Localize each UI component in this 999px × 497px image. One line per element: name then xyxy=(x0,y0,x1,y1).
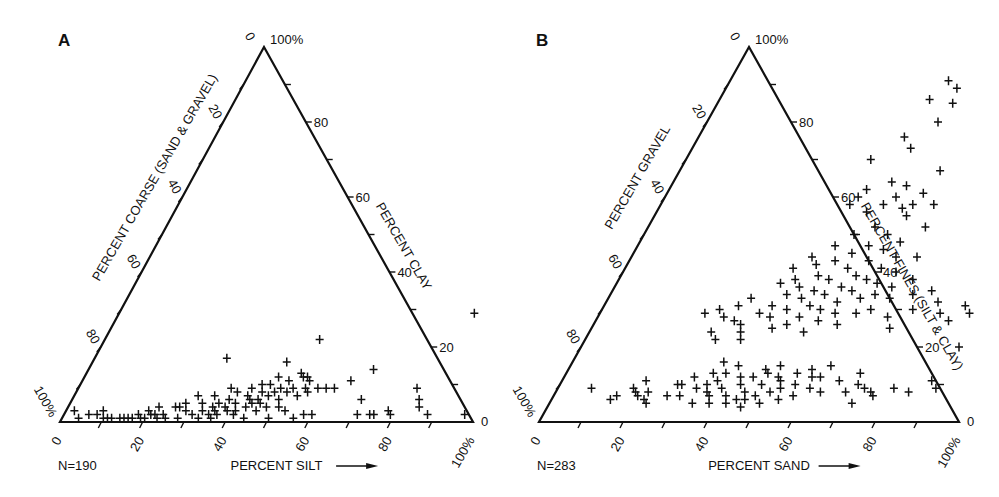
data-point-plus-icon xyxy=(934,118,942,127)
data-point-plus-icon xyxy=(842,388,850,397)
data-point-plus-icon xyxy=(871,290,879,299)
data-point-plus-icon xyxy=(690,373,698,382)
data-point-plus-icon xyxy=(252,406,260,415)
data-point-plus-icon xyxy=(718,384,726,393)
data-point-plus-icon xyxy=(928,286,936,295)
data-point-plus-icon xyxy=(806,384,814,393)
data-point-plus-icon xyxy=(856,294,864,303)
data-point-plus-icon xyxy=(735,361,743,370)
data-point-plus-icon xyxy=(825,275,833,284)
data-point-plus-icon xyxy=(283,358,291,367)
data-point-plus-icon xyxy=(888,178,896,187)
data-point-plus-icon xyxy=(783,290,791,299)
left-tick-label: 40 xyxy=(165,176,185,196)
bottom-tick-label: 0 xyxy=(48,434,65,448)
data-point-plus-icon xyxy=(930,200,938,209)
data-point-plus-icon xyxy=(766,313,774,322)
data-point-plus-icon xyxy=(831,309,839,318)
ternary-figure: 0202020404040606060808080100%00100%100%P… xyxy=(0,0,999,497)
panel-label-b: B xyxy=(536,31,548,50)
data-point-plus-icon xyxy=(926,95,934,104)
left-tick-label: 20 xyxy=(205,101,225,121)
right-tick-label: 80 xyxy=(314,115,328,130)
data-point-plus-icon xyxy=(85,410,93,419)
data-point-plus-icon xyxy=(886,324,894,333)
bottom-tick-label: 20 xyxy=(127,434,147,454)
data-point-plus-icon xyxy=(357,395,365,404)
data-point-plus-icon xyxy=(642,376,650,385)
data-point-plus-icon xyxy=(720,358,728,367)
apex-100-label: 100% xyxy=(270,32,304,47)
data-point-plus-icon xyxy=(756,399,764,408)
data-point-plus-icon xyxy=(783,305,791,314)
data-point-plus-icon xyxy=(863,185,871,194)
bottom-axis-title: PERCENT SAND xyxy=(708,458,810,473)
data-point-plus-icon xyxy=(903,211,911,220)
data-point-plus-icon xyxy=(194,391,202,400)
right-tick-label: 60 xyxy=(356,190,370,205)
bottom-tick-label: 100% xyxy=(934,434,964,471)
data-point-plus-icon xyxy=(707,328,715,337)
data-point-plus-icon xyxy=(676,391,684,400)
data-point-plus-icon xyxy=(741,395,749,404)
data-point-plus-icon xyxy=(848,249,856,258)
data-point-plus-icon xyxy=(751,391,759,400)
data-point-plus-icon xyxy=(330,384,338,393)
data-point-plus-icon xyxy=(921,223,929,232)
data-point-plus-icon xyxy=(949,99,957,108)
data-point-plus-icon xyxy=(814,271,822,280)
left-tick-label: 20 xyxy=(689,101,709,121)
data-point-plus-icon xyxy=(413,384,421,393)
data-point-plus-icon xyxy=(791,275,799,284)
data-point-plus-icon xyxy=(353,410,361,419)
data-point-plus-icon xyxy=(709,369,717,378)
data-point-plus-icon xyxy=(768,324,776,333)
right-zero-label: 0 xyxy=(481,414,488,429)
data-point-plus-icon xyxy=(275,373,283,382)
data-point-plus-icon xyxy=(701,309,709,318)
left-axis-title: PERCENT COARSE (SAND & GRAVEL) xyxy=(89,71,220,283)
data-point-plus-icon xyxy=(266,380,274,389)
data-point-plus-icon xyxy=(588,384,596,393)
data-point-plus-icon xyxy=(777,384,785,393)
bottom-tick-label: 0 xyxy=(527,434,544,448)
data-point-plus-icon xyxy=(945,76,953,85)
data-point-plus-icon xyxy=(211,391,219,400)
data-point-plus-icon xyxy=(867,155,875,164)
data-point-plus-icon xyxy=(884,313,892,322)
data-point-plus-icon xyxy=(768,301,776,310)
left-tick-label: 40 xyxy=(647,176,667,196)
data-point-plus-icon xyxy=(961,301,969,310)
data-point-plus-icon xyxy=(795,283,803,292)
data-point-plus-icon xyxy=(300,410,308,419)
data-point-plus-icon xyxy=(816,388,824,397)
data-point-plus-icon xyxy=(966,309,974,318)
data-point-plus-icon xyxy=(735,301,743,310)
right-tick-label: 60 xyxy=(841,190,855,205)
data-point-plus-icon xyxy=(913,253,921,262)
data-point-plus-icon xyxy=(907,144,915,153)
data-point-plus-icon xyxy=(777,361,785,370)
data-point-plus-icon xyxy=(248,384,256,393)
apex-zero-label: 0 xyxy=(727,30,744,44)
data-point-plus-icon xyxy=(737,403,745,412)
panel-label-a: A xyxy=(58,31,70,50)
data-point-plus-icon xyxy=(909,200,917,209)
data-point-plus-icon xyxy=(795,313,803,322)
bottom-tick-label: 60 xyxy=(775,434,795,454)
data-point-plus-icon xyxy=(322,384,330,393)
data-point-plus-icon xyxy=(783,320,791,329)
bottom-tick-label: 100% xyxy=(448,434,478,471)
data-point-plus-icon xyxy=(644,388,652,397)
data-point-plus-icon xyxy=(848,286,856,295)
data-point-plus-icon xyxy=(888,283,896,292)
data-point-plus-icon xyxy=(705,399,713,408)
data-point-plus-icon xyxy=(758,380,766,389)
bottom-tick-label: 80 xyxy=(375,434,395,454)
right-zero-label: 0 xyxy=(967,414,974,429)
data-point-plus-icon xyxy=(833,298,841,307)
data-point-plus-icon xyxy=(347,376,355,385)
apex-100-label: 100% xyxy=(755,32,789,47)
data-point-plus-icon xyxy=(848,399,856,408)
data-point-plus-icon xyxy=(424,410,432,419)
